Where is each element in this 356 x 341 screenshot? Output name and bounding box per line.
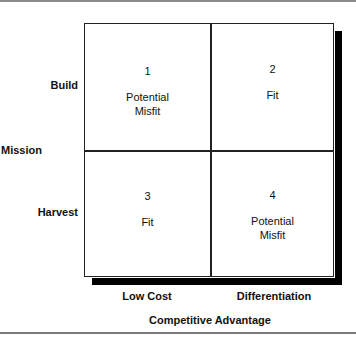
matrix-shadow-right xyxy=(335,31,342,285)
quadrant-label-line1: Fit xyxy=(85,215,210,229)
top-rule xyxy=(0,0,356,2)
quadrant-1: 1 Potential Misfit xyxy=(85,64,210,118)
quadrant-2: 2 Fit xyxy=(210,62,335,102)
quadrant-number: 2 xyxy=(210,62,335,76)
strategy-matrix: 1 Potential Misfit 2 Fit 3 Fit 4 Potenti… xyxy=(84,23,334,277)
row-label-build: Build xyxy=(42,79,78,91)
quadrant-label-line1: Fit xyxy=(210,88,335,102)
bottom-rule xyxy=(0,332,356,334)
quadrant-label-line2: Misfit xyxy=(85,104,210,118)
x-axis-title: Competitive Advantage xyxy=(130,314,290,326)
quadrant-label-line1: Potential xyxy=(210,214,335,228)
column-label-differentiation: Differentiation xyxy=(224,290,324,302)
column-label-low-cost: Low Cost xyxy=(110,290,184,302)
quadrant-label-line2: Misfit xyxy=(210,228,335,242)
quadrant-4: 4 Potential Misfit xyxy=(210,188,335,242)
quadrant-number: 3 xyxy=(85,189,210,203)
y-axis-title: Mission xyxy=(0,144,43,156)
quadrant-number: 4 xyxy=(210,188,335,202)
quadrant-number: 1 xyxy=(85,64,210,78)
quadrant-label-line1: Potential xyxy=(85,90,210,104)
row-label-harvest: Harvest xyxy=(30,206,78,218)
quadrant-3: 3 Fit xyxy=(85,189,210,229)
matrix-shadow-bottom xyxy=(92,278,342,285)
horizontal-divider xyxy=(85,150,333,152)
